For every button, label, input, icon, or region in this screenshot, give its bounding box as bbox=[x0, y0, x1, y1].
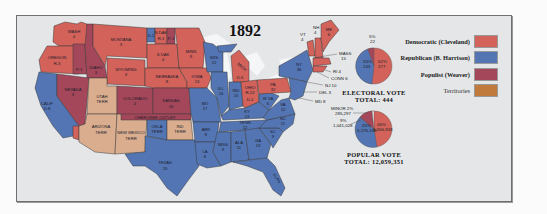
state-n-dak-p[interactable]: P-1 bbox=[167, 28, 175, 44]
state-calif-r[interactable] bbox=[73, 126, 79, 140]
svg-text:TERR: TERR bbox=[95, 130, 106, 135]
popular-vote-total: TOTAL: 12,059,351 bbox=[333, 158, 415, 165]
state-oregon-populist[interactable]: P-1 bbox=[73, 44, 87, 74]
svg-text:RI 4: RI 4 bbox=[333, 69, 342, 74]
territories-swatch bbox=[474, 84, 498, 97]
svg-text:D-5: D-5 bbox=[237, 75, 244, 80]
legend-item-democratic: Democratic (Cleveland) bbox=[393, 33, 498, 50]
svg-text:TERR: TERR bbox=[151, 129, 162, 134]
state-ark[interactable]: ARK 8 bbox=[193, 122, 219, 142]
state-colorado[interactable]: COLORADO 4 bbox=[117, 86, 153, 116]
state-pa[interactable]: PA 32 bbox=[257, 78, 291, 94]
svg-text:4: 4 bbox=[301, 37, 304, 42]
state-wyoming[interactable]: WYOMING 3 bbox=[107, 58, 145, 86]
svg-text:TERR: TERR bbox=[125, 136, 136, 141]
republican-swatch bbox=[474, 51, 498, 64]
svg-text:13: 13 bbox=[245, 114, 250, 119]
svg-text:CONN 6: CONN 6 bbox=[331, 76, 348, 81]
state-mich[interactable]: MICH D-5 bbox=[231, 50, 249, 82]
electoral-vote-pie: 33% 145 62% 277 5% 22 bbox=[356, 34, 392, 84]
svg-text:CHEROKEE OUTLET: CHEROKEE OUTLET bbox=[134, 115, 176, 120]
svg-text:12: 12 bbox=[281, 107, 286, 112]
state-me[interactable]: ME 6 bbox=[321, 20, 339, 52]
cherokee-outlet: CHEROKEE OUTLET bbox=[121, 114, 191, 120]
svg-text:36: 36 bbox=[297, 67, 302, 72]
map-frame: WASH 4 OREGON R-3 P-1 IDAHO 3 CALIF D-8 … bbox=[16, 15, 512, 202]
svg-text:MD 8: MD 8 bbox=[315, 99, 326, 104]
svg-text:145: 145 bbox=[363, 64, 371, 69]
state-n-dak[interactable]: N DAK R-1 bbox=[155, 28, 168, 44]
svg-text:4: 4 bbox=[314, 30, 317, 35]
svg-text:R-3: R-3 bbox=[54, 61, 61, 66]
svg-text:1,041,028: 1,041,028 bbox=[333, 123, 353, 128]
svg-text:13: 13 bbox=[256, 143, 261, 148]
svg-text:285,297: 285,297 bbox=[335, 111, 351, 116]
svg-text:277: 277 bbox=[378, 64, 386, 69]
state-s-dak[interactable]: S DAK 4 bbox=[147, 44, 179, 68]
territory-indian[interactable]: IND TERR bbox=[167, 120, 193, 140]
svg-text:32: 32 bbox=[271, 87, 276, 92]
svg-text:D-1: D-1 bbox=[247, 97, 254, 102]
svg-text:22: 22 bbox=[370, 39, 375, 44]
state-nj-del-md-ct[interactable] bbox=[289, 78, 307, 100]
legend-item-republican: Republican (B. Harrison) bbox=[393, 50, 498, 67]
svg-text:15: 15 bbox=[341, 56, 346, 61]
svg-text:5,176,108: 5,176,108 bbox=[357, 128, 377, 133]
svg-text:24: 24 bbox=[219, 91, 224, 96]
svg-text:12: 12 bbox=[212, 60, 217, 65]
svg-text:R-22: R-22 bbox=[245, 90, 255, 95]
svg-text:DEL 3: DEL 3 bbox=[319, 90, 332, 95]
legend-item-territories: Territories bbox=[393, 83, 498, 100]
svg-text:10: 10 bbox=[169, 104, 174, 109]
svg-text:OREGON: OREGON bbox=[48, 55, 67, 60]
svg-text:NJ 10: NJ 10 bbox=[325, 83, 337, 88]
democratic-swatch bbox=[474, 35, 498, 48]
svg-text:KANSAS: KANSAS bbox=[163, 98, 180, 103]
state-ind[interactable]: IND 15 bbox=[229, 82, 243, 110]
state-mass[interactable] bbox=[313, 58, 331, 66]
state-minn[interactable]: MINN 9 bbox=[175, 28, 205, 68]
svg-text:P-1: P-1 bbox=[76, 67, 83, 72]
svg-text:NEW MEXICO: NEW MEXICO bbox=[117, 130, 145, 135]
popular-vote-caption: POPULAR VOTE TOTAL: 12,059,351 bbox=[333, 151, 415, 165]
svg-text:TERR: TERR bbox=[174, 129, 185, 134]
popular-vote-pie: 46% 5,556,918 43% 5,176,108 MINOR 2% 285… bbox=[331, 106, 393, 147]
svg-text:R-1: R-1 bbox=[158, 36, 165, 41]
svg-text:15: 15 bbox=[234, 93, 239, 98]
svg-text:11: 11 bbox=[237, 145, 242, 150]
svg-text:12: 12 bbox=[243, 125, 248, 130]
popular-vote-title: POPULAR VOTE bbox=[333, 151, 415, 158]
svg-text:17: 17 bbox=[203, 106, 208, 111]
map-title: 1892 bbox=[229, 22, 261, 40]
state-wash[interactable]: WASH 4 bbox=[53, 22, 89, 46]
svg-text:TERR: TERR bbox=[96, 99, 107, 104]
state-ny[interactable]: NY 36 bbox=[279, 50, 313, 82]
svg-text:ARIZONA: ARIZONA bbox=[92, 124, 111, 129]
legend: Democratic (Cleveland) Republican (B. Ha… bbox=[393, 33, 498, 99]
svg-text:13: 13 bbox=[195, 79, 200, 84]
svg-text:15: 15 bbox=[163, 166, 168, 171]
svg-text:N DAK: N DAK bbox=[155, 30, 168, 35]
state-ri-ct[interactable] bbox=[313, 66, 327, 72]
state-fla[interactable]: FLA 4 bbox=[233, 158, 285, 196]
svg-text:11: 11 bbox=[281, 121, 286, 126]
state-kansas[interactable]: KANSAS 10 bbox=[153, 88, 191, 114]
populist-swatch bbox=[474, 68, 498, 81]
svg-text:TEXAS: TEXAS bbox=[158, 160, 172, 165]
legend-item-populist: Populist (Weaver) bbox=[393, 66, 498, 83]
svg-text:D-8: D-8 bbox=[44, 106, 51, 111]
svg-text:P-1: P-1 bbox=[168, 36, 175, 41]
